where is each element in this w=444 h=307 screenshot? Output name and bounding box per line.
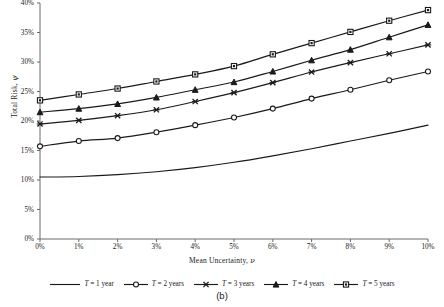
legend-item[interactable]: T = 4 years [263,279,324,290]
chart-series [37,7,430,102]
y-axis-tick-label: 15% [6,147,34,155]
x-axis-title: Mean Uncertainty, ν [0,256,444,265]
x-axis-tick-label: 10% [413,243,443,251]
triangle-marker-icon [263,279,289,290]
figure-caption: (b) [0,290,444,301]
axis-lines [40,3,428,239]
x-axis-tick-label: 0% [25,243,55,251]
x-axis-title-symbol: ν [250,256,255,265]
axis-ticks [37,3,428,242]
y-axis-tick-labels: 0%5%10%15%20%25%30%35%40% [4,0,34,250]
x-axis-tick-label: 1% [64,243,94,251]
chart-canvas [0,0,444,250]
legend-item-symbol: T [292,280,296,288]
legend-item-label: T = 5 years [362,280,394,288]
legend-item[interactable]: T = 5 years [333,279,394,290]
cross-marker-icon [193,279,219,290]
legend-item-symbol: T [152,280,156,288]
x-axis-tick-label: 3% [141,243,171,251]
y-axis-tick-label: 35% [6,29,34,37]
x-axis-tick-label: 7% [297,243,327,251]
chart-legend: T = 1 yearT = 2 yearsT = 3 yearsT = 4 ye… [0,277,444,291]
x-axis-tick-label: 8% [335,243,365,251]
chart-figure: Total Risk, ψ 0%5%10%15%20%25%30%35%40% … [0,0,444,307]
legend-item-label: T = 3 years [222,280,254,288]
legend-item-symbol: T [222,280,226,288]
plot-area: Total Risk, ψ 0%5%10%15%20%25%30%35%40% … [0,0,444,270]
y-axis-tick-label: 10% [6,176,34,184]
legend-item-symbol: T [84,280,88,288]
x-axis-title-text: Mean Uncertainty, [189,256,250,265]
y-axis-tick-label: 25% [6,88,34,96]
x-axis-tick-label: 9% [374,243,404,251]
y-axis-tick-label: 30% [6,58,34,66]
chart-series [40,125,428,177]
x-axis-tick-label: 4% [180,243,210,251]
legend-item[interactable]: T = 3 years [193,279,254,290]
legend-item-label: T = 1 year [84,280,113,288]
circle-marker-icon [123,279,149,290]
x-axis-tick-label: 5% [219,243,249,251]
x-axis-tick-label: 6% [258,243,288,251]
x-axis-tick-label: 2% [103,243,133,251]
legend-item[interactable]: T = 1 year [49,279,113,290]
y-axis-tick-label: 5% [6,206,34,214]
x-axis-tick-labels: 0%1%2%3%4%5%6%7%8%9%10% [0,243,444,257]
legend-item-symbol: T [362,280,366,288]
legend-item[interactable]: T = 2 years [123,279,184,290]
legend-item-label: T = 4 years [292,280,324,288]
y-axis-tick-label: 20% [6,117,34,125]
y-axis-tick-label: 0% [6,235,34,243]
legend-item-label: T = 2 years [152,280,184,288]
none-icon [49,279,81,290]
y-axis-tick-label: 40% [6,0,34,7]
square-marker-icon [333,279,359,290]
